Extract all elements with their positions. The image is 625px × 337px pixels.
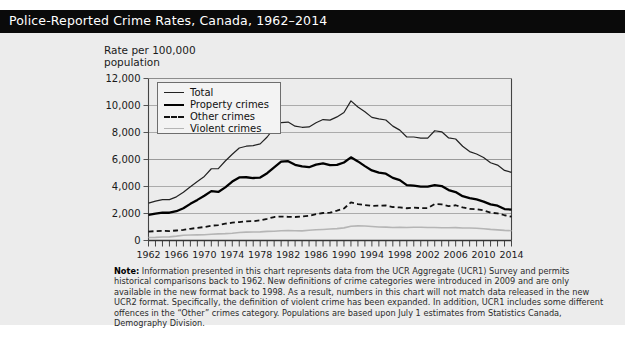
legend-label-property-crimes: Property crimes xyxy=(190,99,269,110)
figure: Police-Reported Crime Rates, Canada, 196… xyxy=(0,0,625,337)
x-minor-ticks xyxy=(149,241,512,247)
legend-line-other-icon xyxy=(163,111,185,121)
y-tick-label-0: 0 xyxy=(97,235,141,246)
x-tick-label-2014: 2014 xyxy=(495,249,529,260)
y-tick-marks xyxy=(144,79,149,241)
footnote-text: Information presented in this chart repr… xyxy=(114,266,603,328)
legend-item-violent-crimes: Violent crimes xyxy=(163,122,280,134)
series-line-violent-crimes xyxy=(149,226,512,238)
footnote-label: Note: xyxy=(114,266,139,276)
y-tick-label-6000: 6,000 xyxy=(97,154,141,165)
y-tick-label-4000: 4,000 xyxy=(97,181,141,192)
y-tick-label-2000: 2,000 xyxy=(97,208,141,219)
y-tick-label-12000: 12,000 xyxy=(97,73,141,84)
legend-label-violent-crimes: Violent crimes xyxy=(190,123,261,134)
legend-item-property-crimes: Property crimes xyxy=(163,98,280,110)
legend-label-other-crimes: Other crimes xyxy=(190,111,255,122)
legend-line-property-icon xyxy=(163,99,185,109)
legend-item-other-crimes: Other crimes xyxy=(163,110,280,122)
chart-footnote: Note: Information presented in this char… xyxy=(114,266,606,328)
y-tick-label-10000: 10,000 xyxy=(97,100,141,111)
legend-line-violent-icon xyxy=(163,123,185,133)
legend-line-total-icon xyxy=(163,87,185,97)
y-tick-label-8000: 8,000 xyxy=(97,127,141,138)
chart-legend: Total Property crimes Other crimes Viole… xyxy=(157,82,281,134)
legend-item-total: Total xyxy=(163,86,280,98)
legend-label-total: Total xyxy=(190,87,213,98)
